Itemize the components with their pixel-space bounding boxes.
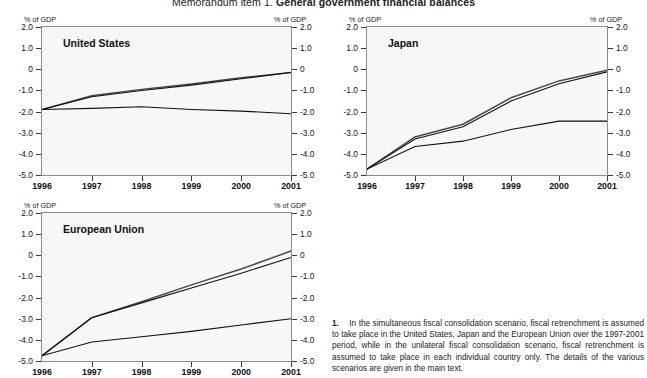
y-tick-label-left: -3.0 [1,129,33,137]
y-tick-label-right: -2.0 [616,108,647,116]
y-tick-right [292,133,297,134]
y-tick-right [608,48,613,49]
y-tick-right [292,255,297,256]
x-tick [241,362,242,367]
y-tick-label-left: -1.0 [1,86,33,94]
y-tick-left [36,234,41,235]
panel-title-us: United States [63,37,130,49]
x-tick [607,176,608,181]
y-tick-left [36,255,41,256]
plot-area-japan [366,26,608,176]
y-tick-label-right: 0 [616,65,647,73]
series-line [42,107,291,114]
y-tick-right [292,90,297,91]
x-tick-label: 1997 [72,368,112,377]
y-tick-label-right: -2.0 [300,294,332,302]
y-axis-unit-right-japan: % of GDP [590,15,622,24]
series-line [42,251,291,356]
y-tick-right [292,175,297,176]
series-line [367,70,607,169]
footnote-text: In the simultaneous fiscal consolidation… [332,319,644,373]
y-axis-unit-left-us: % of GDP [24,15,56,24]
y-tick-right [608,154,613,155]
y-tick-label-right: -5.0 [300,357,332,365]
y-tick-right [608,133,613,134]
x-tick-label: 1999 [491,182,531,191]
x-tick [191,176,192,181]
y-tick-right [608,90,613,91]
y-tick-label-right: -1.0 [616,86,647,94]
y-tick-right [608,27,613,28]
y-tick-left [361,90,366,91]
x-tick-label: 2001 [587,182,627,191]
y-tick-left [36,112,41,113]
x-tick-label: 1998 [122,182,162,191]
plot-area-eu [41,212,292,362]
y-tick-label-left: -5.0 [326,171,358,179]
y-tick-label-right: -3.0 [616,129,647,137]
y-tick-left [361,175,366,176]
y-tick-label-left: -2.0 [1,294,33,302]
x-tick-label: 2001 [271,182,311,191]
x-tick-label: 1998 [443,182,483,191]
x-tick [559,176,560,181]
y-tick-left [36,298,41,299]
x-tick-label: 1997 [395,182,435,191]
y-tick-label-left: 2.0 [1,23,33,31]
y-tick-label-left: -5.0 [1,357,33,365]
y-tick-label-left: -4.0 [1,150,33,158]
y-tick-label-right: -5.0 [300,171,332,179]
y-tick-label-right: -3.0 [300,129,332,137]
y-tick-label-right: 1.0 [616,44,647,52]
x-tick-label: 1999 [171,368,211,377]
y-tick-left [36,48,41,49]
y-tick-label-right: 2.0 [300,209,332,217]
x-tick [291,362,292,367]
y-tick-left [36,154,41,155]
x-tick-label: 2001 [271,368,311,377]
y-tick-right [608,175,613,176]
x-tick-label: 1996 [22,368,62,377]
y-tick-label-left: -1.0 [326,86,358,94]
y-tick-label-left: -2.0 [326,108,358,116]
y-tick-label-left: 2.0 [1,209,33,217]
y-tick-label-right: -5.0 [616,171,647,179]
y-tick-right [292,298,297,299]
y-tick-left [361,69,366,70]
figure-title-main: General government financial balances [276,0,475,8]
y-tick-left [36,27,41,28]
y-tick-label-right: 0 [300,251,332,259]
x-tick [511,176,512,181]
y-tick-left [361,48,366,49]
y-tick-left [36,361,41,362]
y-tick-label-left: 0 [326,65,358,73]
x-tick-label: 1996 [347,182,387,191]
y-tick-left [36,319,41,320]
x-tick [92,362,93,367]
x-tick [415,176,416,181]
series-line [367,72,607,169]
x-tick-label: 2000 [221,182,261,191]
series-line [42,319,291,356]
y-tick-label-left: -4.0 [326,150,358,158]
series-line [42,72,291,109]
y-tick-label-left: -1.0 [1,272,33,280]
y-tick-label-left: 0 [1,251,33,259]
y-tick-label-right: -4.0 [616,150,647,158]
y-tick-left [36,133,41,134]
x-tick [291,176,292,181]
y-tick-left [36,175,41,176]
y-tick-left [36,340,41,341]
y-tick-right [292,234,297,235]
series-line [42,72,291,109]
y-tick-right [292,69,297,70]
y-tick-label-left: -2.0 [1,108,33,116]
series-line [367,121,607,169]
x-tick-label: 1998 [122,368,162,377]
y-tick-label-left: 1.0 [326,44,358,52]
y-tick-right [608,69,613,70]
y-tick-label-right: -4.0 [300,336,332,344]
y-axis-unit-right-us: % of GDP [274,15,306,24]
x-tick [463,176,464,181]
y-tick-label-right: 1.0 [300,230,332,238]
